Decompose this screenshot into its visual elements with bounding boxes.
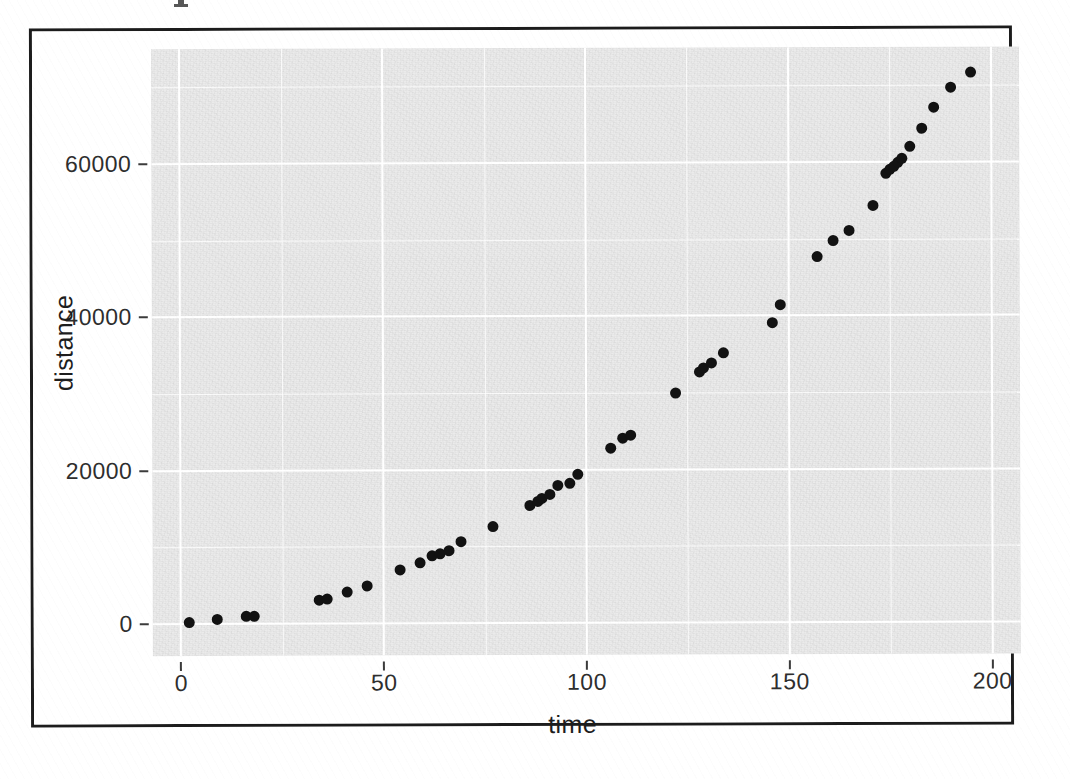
data-point (342, 586, 353, 597)
data-point (544, 488, 555, 499)
gridline-major-vertical (584, 48, 588, 655)
data-point (625, 430, 636, 441)
data-point (945, 82, 956, 93)
y-axis-ticks: 0200004000060000 (29, 25, 1012, 28)
plot-panel (151, 46, 1021, 656)
data-point (718, 348, 729, 359)
data-point (394, 565, 405, 576)
data-point (573, 469, 584, 480)
gridline-major-vertical (381, 48, 385, 655)
x-axis-tick-label: 200 (973, 667, 1013, 694)
y-axis-tick-label: 60000 (21, 151, 131, 178)
x-axis-title: time (31, 708, 1014, 740)
gridline-minor-vertical (686, 47, 689, 654)
gridline-major-vertical (178, 49, 182, 656)
gridlines (151, 46, 1019, 49)
data-point (443, 545, 454, 556)
data-point (488, 521, 499, 532)
data-point (415, 557, 426, 568)
y-axis-tick-mark (139, 470, 148, 472)
data-point (827, 235, 838, 246)
data-point (844, 225, 855, 236)
data-point (322, 593, 333, 604)
y-axis-tick-mark (140, 623, 149, 625)
data-point (916, 122, 927, 133)
x-axis-tick-label: 100 (567, 669, 607, 696)
data-point (811, 251, 822, 262)
data-point (249, 610, 260, 621)
data-point (868, 200, 879, 211)
x-axis-tick-label: 50 (371, 669, 398, 696)
cropped-text-fragment (178, 0, 184, 7)
gridline-major-vertical (990, 47, 994, 654)
data-point (904, 141, 915, 152)
data-point (184, 617, 195, 628)
x-axis-ticks: 050100150200 (29, 25, 1012, 28)
data-point (965, 66, 976, 77)
gridline-minor-vertical (889, 47, 892, 654)
scatter-plot: 050100150200 0200004000060000 time dista… (29, 25, 1014, 727)
y-axis-tick-label: 20000 (22, 457, 132, 484)
x-axis-tick-label: 0 (175, 670, 188, 697)
scanned-page: 050100150200 0200004000060000 time dista… (0, 0, 1070, 779)
data-point (455, 536, 466, 547)
y-axis-title: distance (49, 243, 79, 443)
gridline-minor-vertical (281, 49, 284, 656)
data-point (928, 102, 939, 113)
data-point (605, 442, 616, 453)
data-point (552, 480, 563, 491)
data-point (767, 318, 778, 329)
y-axis-tick-mark (138, 163, 147, 165)
data-point (670, 388, 681, 399)
data-point (706, 358, 717, 369)
x-axis-tick-label: 150 (770, 668, 810, 695)
gridline-minor-vertical (484, 48, 487, 655)
data-point (565, 478, 576, 489)
data-point (775, 299, 786, 310)
data-point (362, 580, 373, 591)
y-axis-tick-label: 0 (23, 611, 133, 638)
gridline-major-vertical (787, 47, 791, 654)
y-axis-tick-mark (139, 316, 148, 318)
